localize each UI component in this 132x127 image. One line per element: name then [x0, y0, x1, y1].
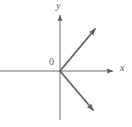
x-axis-label: x: [120, 63, 124, 73]
origin-label: 0: [49, 57, 54, 67]
y-axis-label: y: [56, 1, 60, 11]
lower-right-vector: [60, 71, 94, 111]
upper-right-vector: [60, 29, 96, 72]
coordinate-axes-figure: y x 0: [0, 0, 132, 127]
axes-and-vectors-graphic: [0, 0, 132, 127]
